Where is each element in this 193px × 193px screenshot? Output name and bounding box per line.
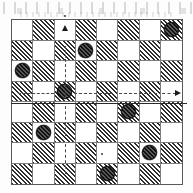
board-cell-r4c1[interactable] bbox=[33, 102, 54, 123]
scan-noise-strip-top bbox=[0, 0, 193, 14]
board-cell-r1c3[interactable] bbox=[76, 41, 97, 62]
board-cell-r6c6[interactable] bbox=[140, 143, 161, 164]
board-cell-r6c3[interactable] bbox=[76, 143, 97, 164]
board-cell-r7c0[interactable] bbox=[12, 164, 33, 185]
board-cell-r7c6[interactable] bbox=[140, 164, 161, 185]
board-cell-r0c3[interactable] bbox=[76, 20, 97, 41]
board-cell-r4c6[interactable] bbox=[140, 102, 161, 123]
board-cell-r5c1[interactable] bbox=[33, 123, 54, 144]
scan-noise-strip-second bbox=[16, 12, 176, 17]
figure-root bbox=[0, 0, 193, 193]
board-cell-r5c5[interactable] bbox=[118, 123, 139, 144]
board-cell-r0c5[interactable] bbox=[118, 20, 139, 41]
board-cell-r4c3[interactable] bbox=[76, 102, 97, 123]
board-cell-r4c7[interactable] bbox=[161, 102, 182, 123]
board-cell-r0c0[interactable] bbox=[12, 20, 33, 41]
board-cell-r1c0[interactable] bbox=[12, 41, 33, 62]
board-cell-r2c4[interactable] bbox=[97, 61, 118, 82]
piece-r5c1[interactable] bbox=[36, 125, 51, 140]
piece-r6c6[interactable] bbox=[142, 145, 157, 160]
board-cell-r6c2[interactable] bbox=[55, 143, 76, 164]
board-cell-r6c5[interactable] bbox=[118, 143, 139, 164]
board-cell-r5c3[interactable] bbox=[76, 123, 97, 144]
board-cell-r7c2[interactable] bbox=[55, 164, 76, 185]
board-cell-r5c2[interactable] bbox=[55, 123, 76, 144]
board-cell-r2c7[interactable] bbox=[161, 61, 182, 82]
board-cell-r2c5[interactable] bbox=[118, 61, 139, 82]
board-cell-r4c4[interactable] bbox=[97, 102, 118, 123]
board-cell-r4c2[interactable] bbox=[55, 102, 76, 123]
board-cell-r3c4[interactable] bbox=[97, 82, 118, 103]
board-cell-r7c7[interactable] bbox=[161, 164, 182, 185]
board-cell-r1c6[interactable] bbox=[140, 41, 161, 62]
piece-r7c4[interactable] bbox=[100, 166, 115, 181]
board-cell-r0c4[interactable] bbox=[97, 20, 118, 41]
board-cell-r6c4[interactable] bbox=[97, 143, 118, 164]
board-cell-r4c0[interactable] bbox=[12, 102, 33, 123]
board-cell-r7c4[interactable] bbox=[97, 164, 118, 185]
board-cell-r7c1[interactable] bbox=[33, 164, 54, 185]
piece-r3c2[interactable] bbox=[57, 84, 72, 99]
board-cell-r0c2[interactable] bbox=[55, 20, 76, 41]
board-cell-r5c7[interactable] bbox=[161, 123, 182, 144]
piece-r1c3[interactable] bbox=[78, 43, 93, 58]
board-cell-r0c7[interactable] bbox=[161, 20, 182, 41]
board-cell-r6c7[interactable] bbox=[161, 143, 182, 164]
board-cell-r5c4[interactable] bbox=[97, 123, 118, 144]
board-cell-r4c5[interactable] bbox=[118, 102, 139, 123]
board-cell-r3c7[interactable] bbox=[161, 82, 182, 103]
board-cell-r7c5[interactable] bbox=[118, 164, 139, 185]
board-cell-r2c3[interactable] bbox=[76, 61, 97, 82]
board-cell-r3c2[interactable] bbox=[55, 82, 76, 103]
board-cell-r1c2[interactable] bbox=[55, 41, 76, 62]
board-cell-r1c7[interactable] bbox=[161, 41, 182, 62]
board-cell-r6c1[interactable] bbox=[33, 143, 54, 164]
board-cell-r6c0[interactable] bbox=[12, 143, 33, 164]
board-cell-r3c0[interactable] bbox=[12, 82, 33, 103]
board-cell-r3c1[interactable] bbox=[33, 82, 54, 103]
board-cell-r2c0[interactable] bbox=[12, 61, 33, 82]
board-cell-r1c5[interactable] bbox=[118, 41, 139, 62]
board-cell-r1c4[interactable] bbox=[97, 41, 118, 62]
board-grid bbox=[12, 20, 182, 184]
piece-r4c5[interactable] bbox=[121, 104, 136, 119]
board-cell-r2c6[interactable] bbox=[140, 61, 161, 82]
board-cell-r3c3[interactable] bbox=[76, 82, 97, 103]
board-cell-r1c1[interactable] bbox=[33, 41, 54, 62]
checkerboard[interactable] bbox=[11, 19, 183, 185]
board-cell-r7c3[interactable] bbox=[76, 164, 97, 185]
board-cell-r5c0[interactable] bbox=[12, 123, 33, 144]
piece-r2c0[interactable] bbox=[15, 63, 30, 78]
board-cell-r5c6[interactable] bbox=[140, 123, 161, 144]
board-cell-r3c5[interactable] bbox=[118, 82, 139, 103]
board-cell-r0c6[interactable] bbox=[140, 20, 161, 41]
board-cell-r0c1[interactable] bbox=[33, 20, 54, 41]
board-cell-r2c2[interactable] bbox=[55, 61, 76, 82]
board-cell-r3c6[interactable] bbox=[140, 82, 161, 103]
top-tick-dot bbox=[64, 15, 66, 17]
board-cell-r2c1[interactable] bbox=[33, 61, 54, 82]
piece-r0c7[interactable] bbox=[164, 22, 179, 37]
